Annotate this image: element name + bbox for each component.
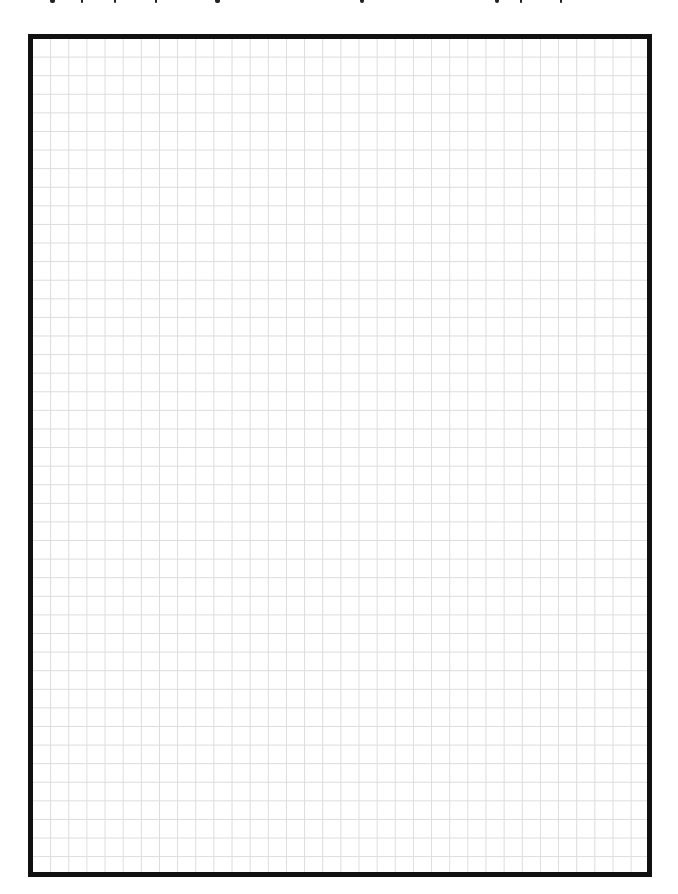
text-fragment [520,0,522,3]
graph-paper-grid [28,34,652,877]
text-fragment [155,0,157,3]
text-fragment [360,0,364,3]
text-fragment [50,0,55,3]
text-fragment [81,0,83,3]
text-fragment [114,0,116,3]
text-fragment [495,0,499,3]
text-fragment [560,0,562,3]
text-fragment [215,0,220,3]
cut-off-header-text [0,0,678,6]
